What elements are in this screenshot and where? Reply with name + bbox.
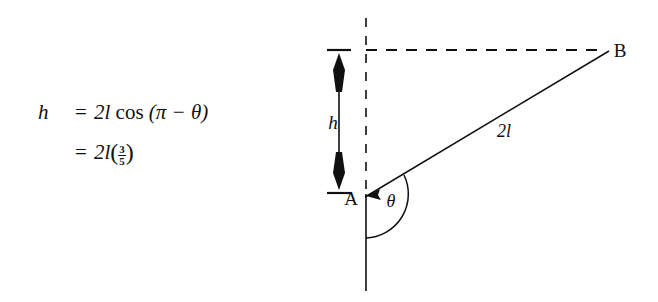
geometry-diagram: h A B θ 2l	[0, 0, 658, 302]
segment-ab	[365, 51, 609, 197]
label-h: h	[328, 112, 338, 133]
height-arrowhead-up	[333, 53, 345, 92]
figure-canvas: h = 2l cos (π − θ) = 2l(35)	[0, 0, 658, 302]
label-point-a: A	[344, 188, 358, 209]
label-theta: θ	[387, 191, 396, 211]
height-arrowhead-down	[333, 152, 345, 190]
label-2l: 2l	[497, 121, 511, 141]
label-point-b: B	[614, 40, 627, 61]
